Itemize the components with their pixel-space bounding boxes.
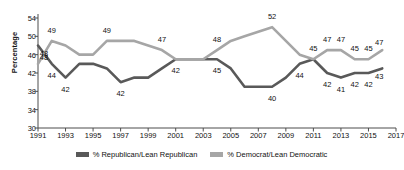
- data-point-label: 43: [375, 72, 383, 81]
- x-tick-label: 2015: [360, 131, 377, 140]
- data-point-label: 40: [268, 93, 276, 102]
- legend-item-republican[interactable]: % Republican/Lean Republican: [76, 150, 198, 159]
- x-tick-label: 2011: [305, 131, 321, 140]
- data-point-label: 45: [213, 66, 221, 75]
- data-point-label: 45: [309, 44, 317, 53]
- x-tick-label: 2005: [222, 131, 239, 140]
- x-tick-label: 1993: [57, 131, 74, 140]
- x-tick-label: 1995: [85, 131, 102, 140]
- legend-swatch: [76, 152, 89, 157]
- data-point-label: 49: [103, 25, 111, 34]
- data-point-label: 42: [116, 89, 124, 98]
- data-point-label: 45: [351, 44, 359, 53]
- data-point-label: 49: [48, 25, 56, 34]
- data-point-label: 47: [337, 35, 345, 44]
- legend-label: % Republican/Lean Republican: [93, 150, 198, 159]
- data-point-label: 42: [172, 66, 180, 75]
- data-point-label: 48: [40, 48, 48, 57]
- data-point-label: 42: [364, 80, 372, 89]
- data-point-label: 41: [337, 84, 345, 93]
- x-tick-label: 1997: [112, 131, 129, 140]
- data-point-label: 52: [268, 12, 276, 21]
- legend-item-democrat[interactable]: % Democrat/Lean Democratic: [210, 150, 327, 159]
- x-tick-label: 2007: [250, 131, 267, 140]
- legend-label: % Democrat/Lean Democratic: [227, 150, 327, 159]
- legend-swatch: [210, 152, 223, 157]
- data-point-label: 42: [323, 80, 331, 89]
- data-point-label: 42: [61, 84, 69, 93]
- data-point-label: 44: [295, 70, 303, 79]
- chart-legend: % Republican/Lean Republican% Democrat/L…: [0, 150, 403, 159]
- x-tick-label: 2003: [195, 131, 212, 140]
- x-tick-label: 2017: [388, 131, 404, 140]
- data-point-label: 42: [351, 80, 359, 89]
- x-tick-label: 1991: [30, 131, 47, 140]
- data-point-label: 44: [48, 70, 56, 79]
- data-point-label: 47: [158, 35, 166, 44]
- data-point-label: 47: [375, 38, 383, 47]
- x-tick-label: 1999: [140, 131, 157, 140]
- data-point-label: 48: [213, 35, 221, 44]
- x-tick-label: 2009: [278, 131, 295, 140]
- data-point-label: 47: [323, 35, 331, 44]
- data-point-label: 45: [364, 44, 372, 53]
- x-tick-label: 2001: [167, 131, 184, 140]
- x-tick-label: 2013: [333, 131, 350, 140]
